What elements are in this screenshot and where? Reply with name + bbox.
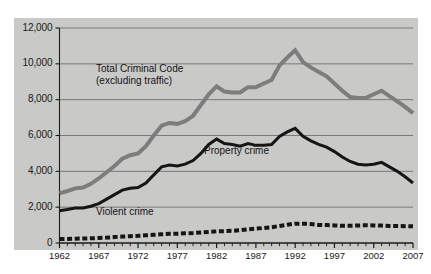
x-axis-tick-label: 1967 <box>79 250 119 261</box>
x-axis-tick-label: 1992 <box>275 250 315 261</box>
total-criminal-code-label: Total Criminal Code (excluding traffic) <box>96 63 183 86</box>
y-axis-tick-label: 10,000 <box>23 57 53 68</box>
x-axis-tick-label: 2002 <box>354 250 394 261</box>
x-axis-tick-label: 1997 <box>314 250 354 261</box>
y-axis-tick-label: 0 <box>47 237 52 248</box>
x-axis-tick-label: 1962 <box>40 250 80 261</box>
property-crime-label: Property crime <box>204 145 269 157</box>
y-tick-marks-group <box>56 28 60 243</box>
gridlines-group <box>60 28 414 207</box>
crime-rate-line-chart: 02,0004,0006,0008,00010,00012,000 196219… <box>0 0 431 274</box>
y-axis-tick-label: 12,000 <box>23 22 53 33</box>
plot-canvas <box>0 0 431 274</box>
x-axis-tick-label: 1972 <box>118 250 158 261</box>
violent-crime-label: Violent crime <box>96 206 154 218</box>
x-axis-tick-label: 1987 <box>236 250 276 261</box>
y-axis-tick-label: 4,000 <box>28 165 53 176</box>
y-axis-tick-label: 2,000 <box>28 201 53 212</box>
x-axis-tick-label: 1982 <box>197 250 237 261</box>
y-axis-tick-label: 8,000 <box>28 93 53 104</box>
x-axis-tick-label: 1977 <box>157 250 197 261</box>
x-axis-tick-label: 2007 <box>393 250 431 261</box>
y-axis-tick-label: 6,000 <box>28 129 53 140</box>
series-line-3 <box>60 224 414 239</box>
